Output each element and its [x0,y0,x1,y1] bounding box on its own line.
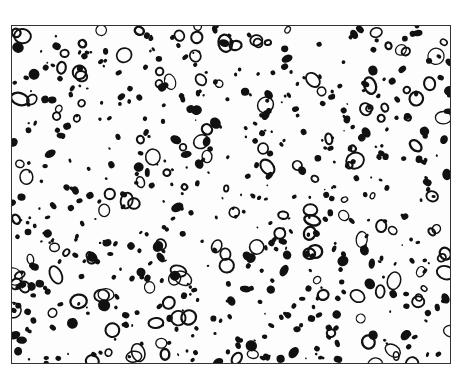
particle [266,184,268,186]
particle [268,220,274,225]
particle [283,94,287,98]
particle [408,257,415,265]
particle [86,311,90,315]
particle [253,162,259,169]
ring-particle [19,169,33,185]
particle [444,57,451,67]
particle [170,200,185,214]
particle [65,316,80,331]
particle [106,115,112,121]
particle [115,69,123,76]
particle [328,195,335,202]
particle [346,103,349,106]
particle [289,70,293,74]
ring-particle [442,324,451,339]
particle [278,263,291,278]
particle [147,135,151,139]
particle [225,97,230,102]
particle [319,100,326,107]
ring-particle [435,264,451,282]
particle [422,258,427,263]
particle [384,127,389,133]
particle [273,246,279,252]
particle [56,75,64,83]
ring-particle [193,26,203,31]
ring-particle [193,72,208,87]
ring-particle [380,103,389,113]
particle [122,321,130,330]
particle [282,139,286,143]
particle [422,178,432,187]
particle [387,76,397,85]
particle [331,245,337,253]
particle [133,161,145,173]
ring-particle [257,157,277,177]
particle [14,347,22,356]
ring-particle [439,38,448,46]
particle [238,67,242,71]
ring-particle [284,26,292,34]
ring-particle [425,45,448,68]
ring-particle [156,338,167,348]
particle [105,177,108,180]
particle [256,71,261,76]
particle [48,96,57,103]
particle [128,275,135,283]
ring-particle [404,356,419,364]
particle [214,215,218,220]
particle [161,119,166,125]
ring-particle [105,189,116,200]
particle [170,182,175,187]
particle [119,267,122,271]
particle [69,84,76,92]
particle [43,356,49,361]
particle [419,198,422,202]
particle [142,64,149,71]
ring-particle [62,248,71,257]
particle [378,178,383,182]
particle [207,171,211,175]
particle [251,137,259,145]
ring-particle [145,148,161,165]
particle [270,130,273,134]
particle [332,309,342,319]
particle [131,324,133,327]
particle [221,197,224,200]
particle [49,201,58,210]
particle [401,156,407,162]
ring-particle [73,114,81,123]
particle [185,166,188,169]
ring-particle [94,26,108,38]
ring-particle [420,285,428,292]
particle [12,136,19,148]
particle [68,158,72,163]
particle [307,315,315,323]
ring-particle [312,275,322,285]
particle [315,353,318,356]
particle [326,145,334,152]
particle [12,198,17,207]
particle [299,297,305,301]
particle [305,357,307,359]
particle [240,87,249,96]
particle [291,106,299,113]
particle [383,339,387,342]
ring-particle [143,281,156,295]
particle [137,150,144,156]
particle [156,56,163,62]
particle [443,85,451,97]
particle [379,255,384,261]
particle [243,125,249,131]
particle [23,308,32,317]
particle [337,266,344,273]
ring-particle [148,317,163,328]
particle [308,268,313,273]
particle [367,64,380,77]
particle [321,139,324,142]
particle [51,41,62,51]
ring-particle [369,26,383,38]
particle [259,268,265,274]
ring-particle [362,76,378,96]
particle [369,46,377,54]
ring-particle [326,329,336,338]
